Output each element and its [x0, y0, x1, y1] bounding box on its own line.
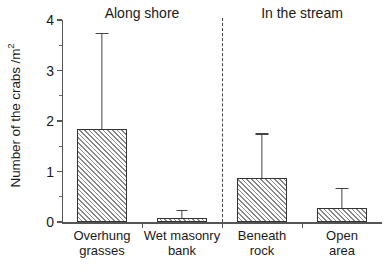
y-tick-minor [59, 196, 63, 197]
category-label: Openarea [326, 229, 358, 258]
crab-density-bar-chart: Number of the crabs /m2 01234 Along shor… [0, 0, 391, 278]
category-label: Wet masonrybank [144, 229, 220, 258]
error-bar-stem [341, 188, 342, 208]
y-tick-minor [59, 45, 63, 46]
plot-area: 01234 [62, 20, 382, 222]
y-tick-label: 3 [46, 64, 54, 78]
x-tick [222, 222, 223, 228]
x-tick [142, 222, 143, 228]
y-tick-minor [59, 95, 63, 96]
bar [317, 208, 367, 222]
error-bar-cap [256, 133, 269, 134]
category-label-line: bank [144, 244, 220, 259]
bar [237, 178, 287, 222]
y-tick-major [57, 171, 63, 172]
y-tick-label: 1 [46, 165, 54, 179]
bar [157, 218, 207, 222]
y-axis-title-text: Number of the crabs /m [8, 48, 23, 187]
category-label-line: rock [238, 244, 286, 259]
category-label-line: Overhung [73, 229, 130, 244]
y-tick-major [57, 19, 63, 20]
y-tick-label: 4 [46, 13, 54, 27]
category-label: Overhunggrasses [73, 229, 130, 258]
y-tick-major [57, 221, 63, 222]
category-label-line: Open [326, 229, 358, 244]
category-label-line: area [326, 244, 358, 259]
group-label: In the stream [261, 6, 343, 21]
y-tick-label: 0 [46, 215, 54, 229]
category-label: Beneathrock [238, 229, 286, 258]
y-tick-major [57, 120, 63, 121]
bar [77, 129, 127, 222]
error-bar-cap [177, 210, 188, 211]
y-tick-label: 2 [46, 114, 54, 128]
category-label-line: Wet masonry [144, 229, 220, 244]
error-bar-stem [261, 133, 262, 178]
y-axis-title-superscript: 2 [5, 43, 16, 48]
category-label-line: Beneath [238, 229, 286, 244]
category-label-line: grasses [73, 244, 130, 259]
x-tick [302, 222, 303, 228]
error-bar-stem [101, 33, 102, 129]
y-axis-title: Number of the crabs /m2 [2, 0, 28, 230]
group-divider-line [222, 18, 223, 222]
y-axis-line [62, 20, 63, 222]
y-tick-minor [59, 146, 63, 147]
y-tick-major [57, 70, 63, 71]
error-bar-cap [336, 188, 349, 189]
error-bar-cap [96, 33, 109, 34]
group-label: Along shore [105, 6, 180, 21]
